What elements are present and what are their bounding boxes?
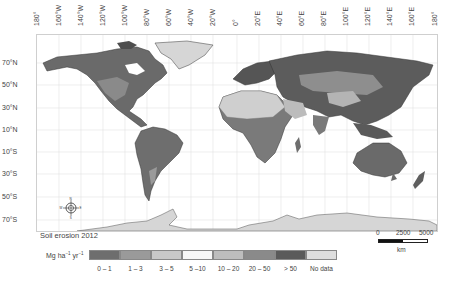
lon-label: 160°E [408,7,415,26]
lon-label: 180° [33,12,40,26]
lon-label: 120°E [364,7,371,26]
figure-title: Soil erosion 2012 [40,231,98,240]
legend-labels: 0 – 1 1 – 3 3 – 5 5 –10 10 – 20 20 – 50 … [89,265,337,272]
legend-swatch-0-1 [89,250,120,260]
lon-label: 80°E [320,11,327,26]
compass-rose-icon: N S E W [59,197,83,219]
world-map: N S E W [36,34,438,232]
map-canvas [37,35,437,231]
scale-tick: 2500 [396,229,410,236]
svg-text:S: S [70,216,72,219]
south-america [135,127,183,201]
greenland [155,41,213,69]
lat-label: 70°N [2,59,18,66]
legend-label: 1 – 3 [120,265,151,272]
scale-bar: 0 2500 5000 km [375,229,445,259]
scale-tick: 5000 [419,229,433,236]
legend-swatch-20-50 [244,250,275,260]
australia [353,143,407,177]
lat-label: 70°S [2,216,17,223]
lat-label: 10°N [2,126,18,133]
lat-label: 50°S [2,193,17,200]
svg-text:N: N [70,197,72,201]
lon-label: 140°W [77,5,84,26]
lat-label: 30°S [2,170,17,177]
india [313,115,329,135]
legend-label: 10 – 20 [213,265,244,272]
lon-label: 0° [232,19,239,26]
lon-label: 100°W [121,5,128,26]
lon-label: 40°W [187,9,194,26]
legend-label: 3 – 5 [151,265,182,272]
legend-label: 20 – 50 [244,265,275,272]
scale-bar-graphic [378,239,428,243]
lat-label: 30°N [2,104,18,111]
indonesia [353,123,393,139]
legend-swatch-10-20 [213,250,244,260]
svg-text:E: E [80,206,82,210]
lat-label: 10°S [2,148,17,155]
legend-swatch-no-data [306,250,337,260]
scale-unit: km [397,246,406,253]
legend-swatch-gt-50 [275,250,306,260]
svg-text:W: W [60,206,63,210]
lon-label: 40°E [276,11,283,26]
madagascar [295,137,301,153]
lon-label: 60°W [165,9,172,26]
legend-swatch-3-5 [151,250,182,260]
legend-swatch-1-3 [120,250,151,260]
lon-label: 60°E [298,11,305,26]
lon-label: 20°W [209,9,216,26]
legend-units: Mg ha−1 yr−1 [46,251,84,259]
lon-label: 120°W [99,5,106,26]
sahara-no-data [219,91,285,119]
legend-label: 0 – 1 [89,265,120,272]
lon-label: 80°W [143,9,150,26]
lon-label: 100°E [342,7,349,26]
legend-label: > 50 [275,265,306,272]
lon-label: 140°E [386,7,393,26]
legend-label: 5 –10 [182,265,213,272]
lat-label: 50°N [2,81,18,88]
legend-bar [89,250,337,260]
lon-label: 180° [431,12,438,26]
lon-label: 160°W [55,5,62,26]
scale-tick: 0 [376,229,380,236]
lon-label: 20°E [254,11,261,26]
legend-label: No data [306,265,337,272]
legend-swatch-5-10 [182,250,213,260]
